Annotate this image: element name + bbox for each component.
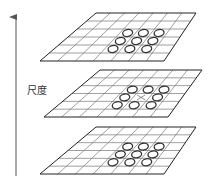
layer-lower-scale: [40, 127, 196, 174]
scale-axis-label: 尺度: [27, 82, 47, 97]
layer-current-scale: [44, 70, 202, 117]
layers-group: [40, 13, 202, 174]
layer-upper-scale: [40, 13, 196, 61]
